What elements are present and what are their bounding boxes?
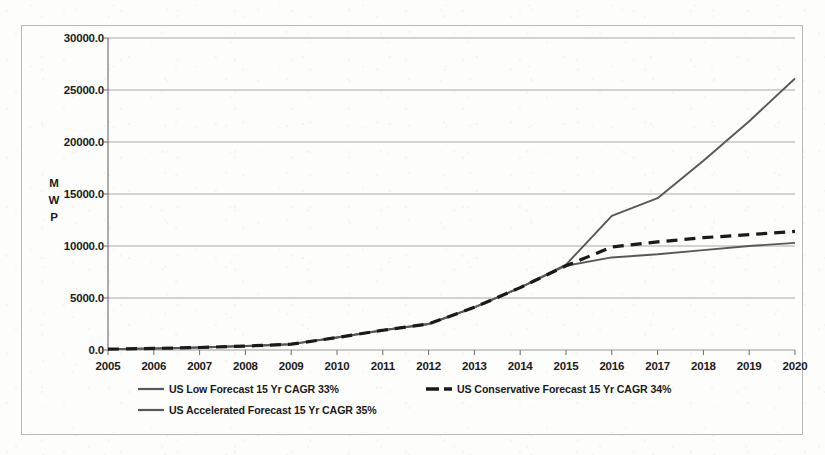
axes <box>104 38 795 355</box>
series-line-2 <box>108 79 795 350</box>
x-tick-label-2016: 2016 <box>590 360 634 372</box>
x-tick-label-2010: 2010 <box>315 360 359 372</box>
gridlines <box>108 38 795 350</box>
x-tick-label-2015: 2015 <box>544 360 588 372</box>
x-tick-label-2005: 2005 <box>86 360 130 372</box>
legend-item-accelerated[interactable]: US Accelerated Forecast 15 Yr CAGR 35% <box>138 404 377 416</box>
x-tick-label-2013: 2013 <box>452 360 496 372</box>
x-tick-label-2012: 2012 <box>407 360 451 372</box>
series-line-1 <box>108 231 795 349</box>
legend-swatch-solid-accelerated <box>138 405 164 415</box>
x-tick-label-2007: 2007 <box>178 360 222 372</box>
x-tick-label-2019: 2019 <box>727 360 771 372</box>
x-tick-label-2009: 2009 <box>269 360 313 372</box>
legend-label-conservative: US Conservative Forecast 15 Yr CAGR 34% <box>457 383 671 395</box>
x-tick-label-2020: 2020 <box>773 360 817 372</box>
series-line-0 <box>108 243 795 349</box>
x-tick-label-2017: 2017 <box>636 360 680 372</box>
legend-item-conservative[interactable]: US Conservative Forecast 15 Yr CAGR 34% <box>426 383 671 395</box>
legend-item-low[interactable]: US Low Forecast 15 Yr CAGR 33% <box>138 383 339 395</box>
x-tick-label-2018: 2018 <box>681 360 725 372</box>
x-tick-label-2011: 2011 <box>361 360 405 372</box>
legend-swatch-solid-low <box>138 384 164 394</box>
x-tick-label-2008: 2008 <box>223 360 267 372</box>
legend-label-accelerated: US Accelerated Forecast 15 Yr CAGR 35% <box>169 404 377 416</box>
legend-label-low: US Low Forecast 15 Yr CAGR 33% <box>169 383 339 395</box>
series-lines <box>108 79 795 350</box>
x-tick-label-2014: 2014 <box>498 360 542 372</box>
legend-swatch-dashed-conservative <box>426 384 452 394</box>
x-tick-label-2006: 2006 <box>132 360 176 372</box>
chart-container: M W P 0.0 5000.0 10000.0 15000.0 20000.0… <box>0 0 825 455</box>
